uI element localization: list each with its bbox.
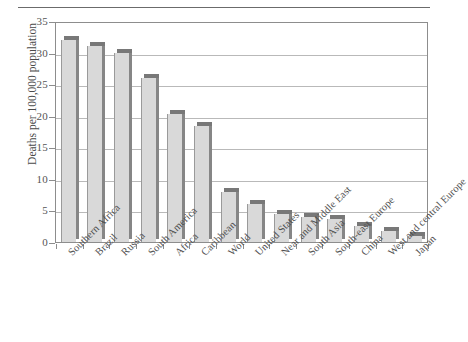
bar-front-face bbox=[247, 204, 262, 242]
bar-side-face bbox=[156, 75, 159, 239]
y-axis-tick-label: 25 bbox=[22, 79, 48, 90]
x-axis-tick-mark bbox=[376, 244, 377, 249]
bar-side-face bbox=[209, 123, 212, 239]
bar-side-face bbox=[342, 216, 345, 239]
bar-front-face bbox=[194, 126, 209, 242]
bar-side-face bbox=[316, 214, 319, 239]
x-axis-tick-mark bbox=[109, 244, 110, 249]
x-axis-tick-mark bbox=[163, 244, 164, 249]
top-horizontal-rule bbox=[18, 7, 430, 8]
bar-front-face bbox=[167, 114, 182, 242]
bar-front-face bbox=[221, 192, 236, 243]
bar-front-face bbox=[407, 236, 422, 242]
x-axis-tick-mark bbox=[269, 244, 270, 249]
bar[interactable] bbox=[407, 236, 422, 242]
bar-top-face bbox=[64, 36, 79, 40]
bar-side-face bbox=[182, 111, 185, 239]
bar[interactable] bbox=[327, 219, 342, 242]
bar[interactable] bbox=[274, 214, 289, 242]
x-axis-tick-mark bbox=[428, 244, 429, 249]
gridline bbox=[56, 181, 427, 182]
y-axis-tick-label: 10 bbox=[22, 174, 48, 185]
bar-front-face bbox=[301, 217, 316, 242]
bar-top-face bbox=[90, 42, 105, 46]
x-axis-tick-mark bbox=[56, 244, 57, 249]
bar-top-face bbox=[277, 210, 292, 214]
bar-side-face bbox=[262, 201, 265, 239]
bar-front-face bbox=[114, 53, 129, 242]
bar[interactable] bbox=[354, 226, 369, 242]
bar-top-face bbox=[357, 222, 372, 226]
y-axis-tick-label: 20 bbox=[22, 111, 48, 122]
x-axis-tick-mark bbox=[136, 244, 137, 249]
bar[interactable] bbox=[381, 231, 396, 242]
bar[interactable] bbox=[167, 114, 182, 242]
y-axis-tick-mark bbox=[49, 148, 55, 149]
bar-top-face bbox=[250, 200, 265, 204]
bar[interactable] bbox=[194, 126, 209, 242]
bar-side-face bbox=[289, 211, 292, 239]
x-axis-tick-mark bbox=[322, 244, 323, 249]
x-axis-tick-mark bbox=[402, 244, 403, 249]
bar[interactable] bbox=[247, 204, 262, 242]
bar[interactable] bbox=[87, 46, 102, 242]
y-axis-tick-label: 30 bbox=[22, 48, 48, 59]
bar[interactable] bbox=[301, 217, 316, 242]
bar-top-face bbox=[144, 74, 159, 78]
x-axis-tick-mark bbox=[216, 244, 217, 249]
x-axis-tick-mark bbox=[349, 244, 350, 249]
y-axis-tick-mark bbox=[49, 117, 55, 118]
bar-top-face bbox=[384, 227, 399, 231]
y-axis-tick-mark bbox=[49, 22, 55, 23]
bar-top-face bbox=[117, 49, 132, 53]
bar[interactable] bbox=[114, 53, 129, 242]
bar-top-face bbox=[330, 215, 345, 219]
bar-top-face bbox=[224, 188, 239, 192]
gridline bbox=[56, 86, 427, 87]
gridline bbox=[56, 118, 427, 119]
bar-front-face bbox=[61, 40, 76, 242]
y-axis-tick-mark bbox=[49, 243, 55, 244]
bar-front-face bbox=[274, 214, 289, 242]
bar-front-face bbox=[354, 226, 369, 242]
x-axis-tick-mark bbox=[243, 244, 244, 249]
y-axis-tick-mark bbox=[49, 54, 55, 55]
bar-side-face bbox=[129, 50, 132, 239]
bar-top-face bbox=[304, 213, 319, 217]
gridline bbox=[56, 55, 427, 56]
y-axis-tick-mark bbox=[49, 180, 55, 181]
x-axis-tick-mark bbox=[83, 244, 84, 249]
y-axis-tick-label: 0 bbox=[22, 237, 48, 248]
plot-area bbox=[55, 22, 428, 243]
x-axis-tick-mark bbox=[296, 244, 297, 249]
bar-front-face bbox=[87, 46, 102, 242]
gridline bbox=[56, 212, 427, 213]
bar-front-face bbox=[327, 219, 342, 242]
bar[interactable] bbox=[141, 78, 156, 242]
bar-top-face bbox=[410, 232, 425, 236]
gridline bbox=[56, 149, 427, 150]
bar-side-face bbox=[102, 43, 105, 239]
bar-front-face bbox=[141, 78, 156, 242]
bar-front-face bbox=[381, 231, 396, 242]
x-axis-tick-mark bbox=[189, 244, 190, 249]
y-axis-tick-mark bbox=[49, 85, 55, 86]
bar-side-face bbox=[76, 37, 79, 239]
y-axis-tick-label: 5 bbox=[22, 205, 48, 216]
bar-top-face bbox=[170, 110, 185, 114]
bar-side-face bbox=[236, 189, 239, 240]
y-axis-tick-label: 15 bbox=[22, 142, 48, 153]
y-axis-tick-mark bbox=[49, 211, 55, 212]
y-axis-tick-label: 35 bbox=[22, 16, 48, 27]
bar[interactable] bbox=[61, 40, 76, 242]
bar[interactable] bbox=[221, 192, 236, 243]
bar-top-face bbox=[197, 122, 212, 126]
